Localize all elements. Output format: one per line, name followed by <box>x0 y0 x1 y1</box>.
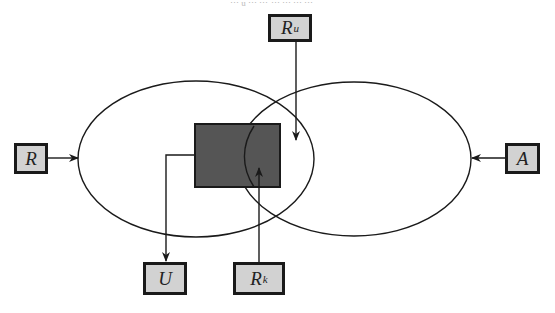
node-r-base: R <box>25 148 37 170</box>
node-u-base: U <box>158 268 172 290</box>
node-rk: Rk <box>233 262 285 295</box>
node-rk-base: R <box>250 268 262 290</box>
node-u: U <box>143 262 187 295</box>
node-rk-sub: k <box>263 273 268 285</box>
node-r: R <box>14 143 48 174</box>
node-ru-base: R <box>281 17 293 39</box>
arrow-core-to-u <box>166 155 194 261</box>
node-a: A <box>505 143 540 174</box>
node-a-base: A <box>517 148 529 170</box>
node-ru: Ru <box>268 14 312 42</box>
node-ru-sub: u <box>294 22 300 34</box>
right-ellipse-over-core <box>244 126 254 187</box>
